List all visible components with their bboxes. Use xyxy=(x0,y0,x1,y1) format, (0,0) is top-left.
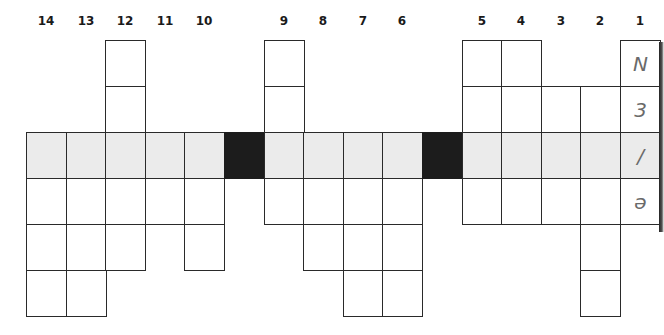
grid-cell[interactable] xyxy=(462,86,503,133)
grid-cell[interactable] xyxy=(462,40,503,87)
grid-cell[interactable] xyxy=(382,132,423,179)
grid-cell[interactable] xyxy=(580,86,621,133)
grid-cell[interactable] xyxy=(303,224,344,271)
cell-letter: 3 xyxy=(634,98,647,122)
column-number-label: 8 xyxy=(303,14,343,28)
grid-cell[interactable] xyxy=(343,270,384,317)
grid-cell[interactable] xyxy=(184,224,225,271)
grid-cell[interactable]: 3 xyxy=(620,86,661,133)
column-number-label: 3 xyxy=(541,14,581,28)
grid-cell[interactable] xyxy=(264,132,305,179)
grid-cell[interactable] xyxy=(541,178,582,225)
grid-cell[interactable] xyxy=(343,132,384,179)
black-cell xyxy=(422,132,463,179)
grid-cell[interactable] xyxy=(26,178,67,225)
grid-cell[interactable] xyxy=(343,224,384,271)
crossword-grid: 1413121110987654321N3/ə xyxy=(0,0,664,335)
column-number-label: 4 xyxy=(501,14,541,28)
grid-cell[interactable] xyxy=(462,132,503,179)
grid-cell[interactable] xyxy=(105,224,146,271)
column-number-label: 6 xyxy=(382,14,422,28)
grid-cell[interactable] xyxy=(580,178,621,225)
grid-cell[interactable] xyxy=(105,178,146,225)
column-number-label: 12 xyxy=(105,14,145,28)
grid-cell[interactable] xyxy=(66,178,107,225)
grid-cell[interactable] xyxy=(264,86,305,133)
grid-cell[interactable] xyxy=(580,132,621,179)
black-cell xyxy=(224,132,265,179)
grid-cell[interactable] xyxy=(26,224,67,271)
grid-cell[interactable] xyxy=(26,270,67,317)
column-number-label: 1 xyxy=(620,14,660,28)
grid-cell[interactable] xyxy=(26,132,67,179)
cell-letter: N xyxy=(633,52,648,76)
grid-cell[interactable] xyxy=(580,270,621,317)
cell-letter: ə xyxy=(634,190,646,214)
cell-letter: / xyxy=(637,144,644,168)
grid-cell[interactable] xyxy=(184,132,225,179)
grid-cell[interactable] xyxy=(462,178,503,225)
grid-cell[interactable] xyxy=(66,132,107,179)
grid-cell[interactable] xyxy=(580,224,621,271)
grid-cell[interactable]: N xyxy=(620,40,661,87)
grid-cell[interactable] xyxy=(184,178,225,225)
grid-cell[interactable] xyxy=(145,178,186,225)
grid-cell[interactable]: / xyxy=(620,132,661,179)
grid-cell[interactable] xyxy=(541,132,582,179)
grid-cell[interactable] xyxy=(501,132,542,179)
grid-cell[interactable] xyxy=(66,224,107,271)
column-number-label: 2 xyxy=(580,14,620,28)
grid-cell[interactable] xyxy=(541,86,582,133)
grid-cell[interactable] xyxy=(501,86,542,133)
column-number-label: 7 xyxy=(343,14,383,28)
grid-cell[interactable] xyxy=(501,178,542,225)
grid-cell[interactable] xyxy=(303,132,344,179)
column-number-label: 14 xyxy=(26,14,66,28)
grid-cell[interactable] xyxy=(145,132,186,179)
grid-cell[interactable] xyxy=(264,40,305,87)
column-number-label: 11 xyxy=(145,14,185,28)
grid-cell[interactable] xyxy=(105,40,146,87)
grid-cell[interactable] xyxy=(382,270,423,317)
column-number-label: 5 xyxy=(462,14,502,28)
grid-cell[interactable] xyxy=(105,86,146,133)
grid-cell[interactable] xyxy=(303,178,344,225)
column-number-label: 13 xyxy=(66,14,106,28)
grid-cell[interactable] xyxy=(105,132,146,179)
grid-cell[interactable] xyxy=(264,178,305,225)
grid-cell[interactable] xyxy=(343,178,384,225)
page-edge-shadow xyxy=(659,42,664,232)
grid-cell[interactable] xyxy=(66,270,107,317)
column-number-label: 10 xyxy=(184,14,224,28)
grid-cell[interactable] xyxy=(501,40,542,87)
grid-cell[interactable]: ə xyxy=(620,178,661,225)
grid-cell[interactable] xyxy=(382,224,423,271)
column-number-label: 9 xyxy=(264,14,304,28)
grid-cell[interactable] xyxy=(382,178,423,225)
